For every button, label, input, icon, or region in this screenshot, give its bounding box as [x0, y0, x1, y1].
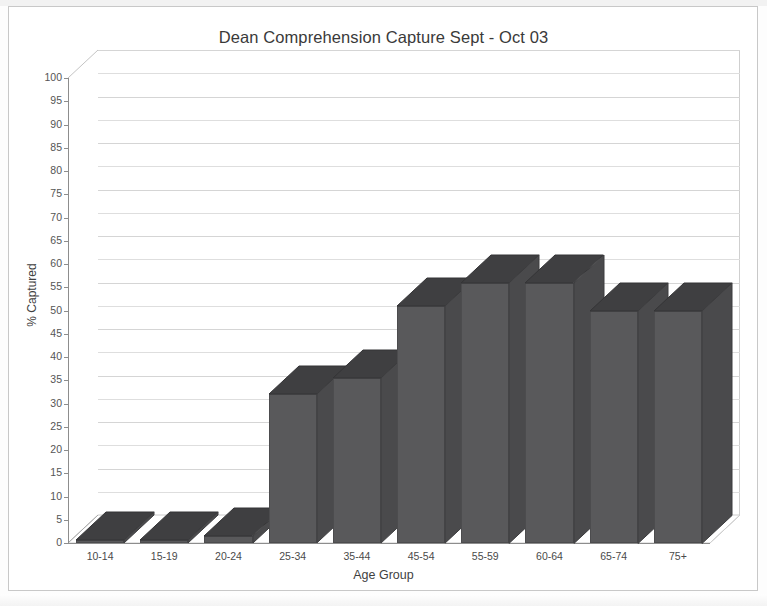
x-tick-label-35-44: 35-44	[333, 550, 381, 562]
bar-75+	[654, 283, 702, 544]
bar-front-face	[269, 394, 317, 543]
bar-front-face	[333, 378, 381, 543]
bar-side-face	[702, 283, 734, 546]
bar-15-19	[140, 512, 188, 543]
bar-65-74	[590, 283, 638, 544]
x-tick-label-25-34: 25-34	[269, 550, 317, 562]
bar-25-34	[269, 366, 317, 543]
bar-55-59	[461, 255, 509, 543]
bar-front-face	[590, 311, 638, 544]
x-tick-label-45-54: 45-54	[397, 550, 445, 562]
bar-20-24	[204, 508, 252, 543]
x-tick-label-10-14: 10-14	[76, 550, 124, 562]
x-tick-label-75+: 75+	[654, 550, 702, 562]
page-scan-edge-bottom	[0, 594, 767, 606]
x-tick-label-15-19: 15-19	[140, 550, 188, 562]
bar-front-face	[461, 283, 509, 543]
x-tick-label-20-24: 20-24	[204, 550, 252, 562]
bar-45-54	[397, 278, 445, 543]
bar-front-face	[654, 311, 702, 544]
bar-series	[0, 0, 767, 606]
x-tick-label-65-74: 65-74	[590, 550, 638, 562]
bar-10-14	[76, 512, 124, 543]
bar-front-face	[397, 306, 445, 543]
x-tick-label-55-59: 55-59	[461, 550, 509, 562]
bar-35-44	[333, 350, 381, 543]
bar-front-face	[525, 283, 573, 543]
chart-page: Dean Comprehension Capture Sept - Oct 03…	[0, 0, 767, 606]
x-axis-title: Age Group	[0, 568, 767, 582]
x-tick-label-60-64: 60-64	[525, 550, 573, 562]
bar-60-64	[525, 255, 573, 543]
